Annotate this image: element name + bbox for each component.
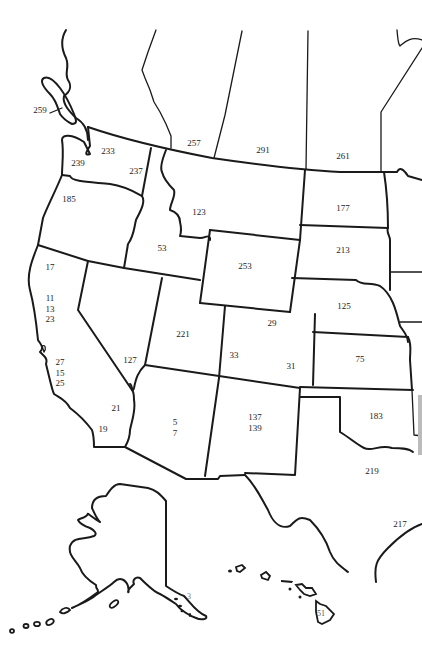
aleutian-5 xyxy=(10,629,14,633)
label-california-south: 21 xyxy=(112,403,121,414)
label-utah: 221 xyxy=(176,329,190,340)
label-washington-idaho: 237 xyxy=(129,166,143,177)
alaska-panhandle-island-1 xyxy=(174,598,178,601)
label-california-coast: 27 15 25 xyxy=(56,357,65,389)
label-california-central: 11 13 23 xyxy=(46,293,55,325)
label-colorado-east: 31 xyxy=(287,361,296,372)
label-south-dakota: 213 xyxy=(336,245,350,256)
hawaii-oahu xyxy=(261,572,270,580)
nevada-arizona-border xyxy=(130,365,145,390)
map-canvas xyxy=(0,0,422,649)
oklahoma-panhandle-border xyxy=(300,397,413,452)
label-arizona: 5 7 xyxy=(173,417,178,438)
hawaii-maui xyxy=(296,584,316,596)
texas-mexico-border xyxy=(245,475,348,572)
label-oklahoma: 183 xyxy=(369,411,383,422)
wyoming-east-border xyxy=(290,240,300,312)
label-oregon: 185 xyxy=(62,194,76,205)
montana-dakota-border xyxy=(300,170,305,240)
label-wyoming: 253 xyxy=(238,261,252,272)
wyoming-south-border xyxy=(200,303,290,312)
kansas-east-border xyxy=(408,337,412,390)
label-idaho: 53 xyxy=(158,243,167,254)
iowa-border xyxy=(390,272,422,322)
label-nevada: 127 xyxy=(123,355,137,366)
alaska xyxy=(70,484,207,619)
label-montana: 123 xyxy=(192,207,206,218)
oregon-california-border xyxy=(38,245,200,280)
arizona-mexico-border xyxy=(125,447,245,479)
hawaii-molokai xyxy=(281,580,293,583)
kansas-oklahoma-border xyxy=(300,387,413,390)
label-california-north: 17 xyxy=(46,262,55,273)
sask-manitoba-border xyxy=(306,31,308,169)
hawaii-niihau xyxy=(228,570,232,573)
alaska-panhandle-island-2 xyxy=(178,605,182,608)
hawaii-lanai xyxy=(289,588,292,591)
label-manitoba: 261 xyxy=(336,151,350,162)
arizona-nm-border xyxy=(205,378,219,476)
dakotas-east-border xyxy=(384,172,390,290)
label-north-dakota: 177 xyxy=(336,203,350,214)
sf-bay xyxy=(42,346,45,352)
washington-idaho-border xyxy=(142,148,151,196)
label-nebraska: 125 xyxy=(337,301,351,312)
idaho-montana-border xyxy=(161,150,210,240)
hawaii-kauai xyxy=(236,565,245,572)
aleutian-4 xyxy=(24,624,29,628)
four-corners-border xyxy=(145,365,300,388)
nd-sd-border xyxy=(300,225,388,228)
label-bc-island: 259 xyxy=(33,105,47,116)
page-edge-shadow xyxy=(418,395,422,455)
oregon-idaho-border xyxy=(124,196,143,268)
texas-gulf-coast xyxy=(375,524,422,582)
colorado-kansas-border xyxy=(313,314,315,385)
label-texas: 219 xyxy=(365,466,379,477)
alaska-panhandle-island-4 xyxy=(189,613,191,617)
aleutian-2 xyxy=(45,618,54,626)
nebraska-kansas-border xyxy=(313,332,408,337)
utah-colorado-border xyxy=(219,306,225,378)
label-colorado-west: 33 xyxy=(230,350,239,361)
bc-alberta-border xyxy=(142,30,171,148)
label-new-mexico: 137 139 xyxy=(248,412,262,433)
label-texas-east: 217 xyxy=(393,519,407,530)
hawaii-kahoolawe xyxy=(299,596,302,599)
nevada-utah-border xyxy=(145,278,162,365)
label-hawaii: 51 xyxy=(317,609,325,620)
kodiak-island xyxy=(109,599,120,609)
label-colorado-north: 29 xyxy=(268,318,277,329)
wyoming-north-border xyxy=(210,230,300,240)
label-alaska: 3 xyxy=(187,592,191,603)
aleutian-1 xyxy=(60,608,70,613)
label-california-la: 19 xyxy=(99,424,108,435)
label-kansas: 75 xyxy=(356,354,365,365)
label-washington-east: 233 xyxy=(101,146,115,157)
alberta-sask-border xyxy=(214,31,242,158)
nevada-california-border xyxy=(78,261,132,390)
label-washington-west: 239 xyxy=(71,158,85,169)
manitoba-ontario-border xyxy=(381,30,422,172)
wyoming-west-border xyxy=(200,230,210,303)
label-saskatchewan: 291 xyxy=(256,145,270,156)
alaska-panhandle-island-3 xyxy=(181,610,184,612)
label-alberta: 257 xyxy=(187,138,201,149)
aleutian-3 xyxy=(34,622,40,626)
oregon-coast xyxy=(38,175,62,245)
